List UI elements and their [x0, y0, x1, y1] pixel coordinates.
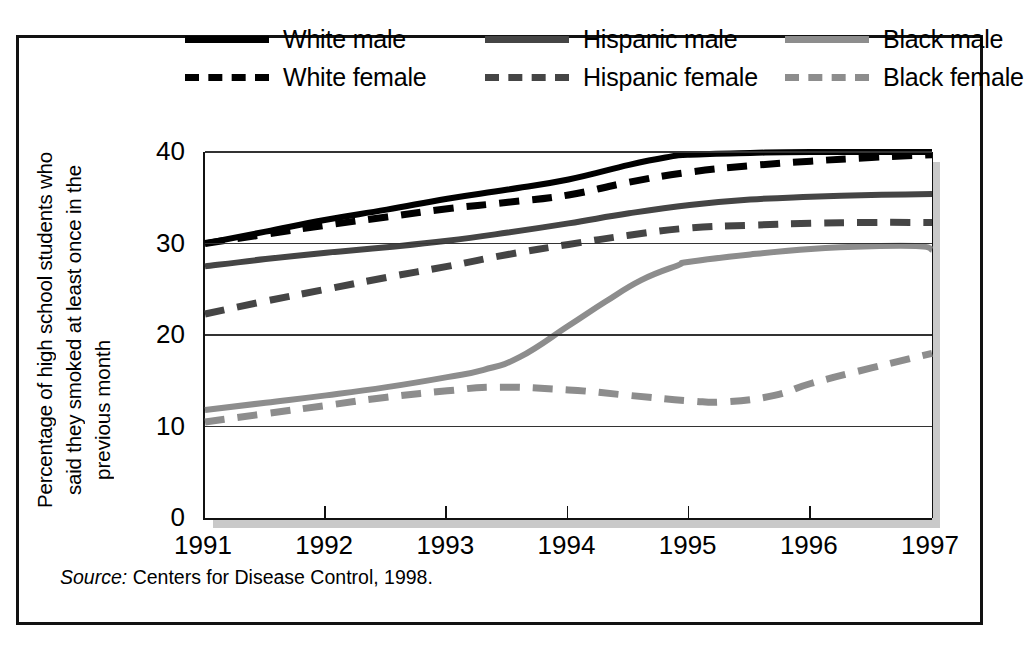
series-line-hispanic-female: [205, 222, 932, 314]
y-tick-label-40: 40: [125, 138, 185, 164]
legend-label-black-male: Black male: [883, 27, 1003, 52]
legend-item-white-female: White female: [185, 60, 427, 94]
legend-row-male: White male Hispanic male Black male: [185, 22, 945, 56]
x-tick-label-1994: 1994: [507, 532, 627, 558]
y-tick-label-20: 20: [125, 321, 185, 347]
chart-legend: White male Hispanic male Black male Whit…: [185, 22, 945, 100]
y-axis-label-line-3: previous month: [88, 300, 118, 520]
x-tick-label-1991: 1991: [143, 532, 263, 558]
legend-item-black-female: Black female: [785, 60, 1024, 94]
x-tick-mark-1995: [688, 506, 690, 518]
series-line-black-male: [205, 246, 932, 410]
y-axis-label: Percentage of high school students who s…: [30, 140, 90, 520]
legend-swatch-hispanic-female-dashed-line-icon: [485, 74, 569, 81]
legend-swatch-white-male-line-icon: [185, 36, 269, 43]
gridline-40: [205, 151, 932, 153]
x-tick-label-1993: 1993: [385, 532, 505, 558]
legend-row-female: White female Hispanic female Black femal…: [185, 60, 945, 94]
y-tick-label-0: 0: [125, 504, 185, 530]
legend-label-hispanic-female: Hispanic female: [583, 65, 758, 90]
legend-item-hispanic-female: Hispanic female: [485, 60, 758, 94]
y-tick-label-10: 10: [125, 413, 185, 439]
plot-area: [203, 152, 932, 520]
x-tick-label-1997: 1997: [870, 532, 990, 558]
gridline-30: [205, 243, 932, 245]
legend-label-black-female: Black female: [883, 65, 1024, 90]
x-tick-mark-1993: [445, 506, 447, 518]
source-label: Source:: [60, 566, 127, 588]
legend-label-hispanic-male: Hispanic male: [583, 27, 737, 52]
series-line-black-female: [205, 353, 932, 422]
legend-swatch-black-female-dashed-line-icon: [785, 74, 869, 81]
legend-label-white-female: White female: [283, 65, 427, 90]
x-tick-mark-1996: [809, 506, 811, 518]
legend-item-white-male: White male: [185, 22, 406, 56]
x-tick-mark-1992: [324, 506, 326, 518]
legend-label-white-male: White male: [283, 27, 406, 52]
x-tick-mark-1994: [567, 506, 569, 518]
legend-swatch-black-male-line-icon: [785, 36, 869, 43]
source-text: Centers for Disease Control, 1998.: [133, 566, 433, 588]
legend-swatch-white-female-dashed-line-icon: [185, 74, 269, 81]
x-tick-label-1995: 1995: [628, 532, 748, 558]
legend-swatch-hispanic-male-line-icon: [485, 36, 569, 43]
x-tick-label-1996: 1996: [749, 532, 869, 558]
x-tick-label-1992: 1992: [264, 532, 384, 558]
y-tick-label-30: 30: [125, 230, 185, 256]
gridline-10: [205, 426, 932, 428]
gridline-20: [205, 334, 932, 336]
source-note: Source: Centers for Disease Control, 199…: [60, 565, 433, 589]
y-axis-label-line-2: said they smoked at least once in the: [59, 140, 89, 520]
y-axis-label-line-1: Percentage of high school students who: [30, 140, 60, 520]
legend-item-hispanic-male: Hispanic male: [485, 22, 737, 56]
legend-item-black-male: Black male: [785, 22, 1003, 56]
